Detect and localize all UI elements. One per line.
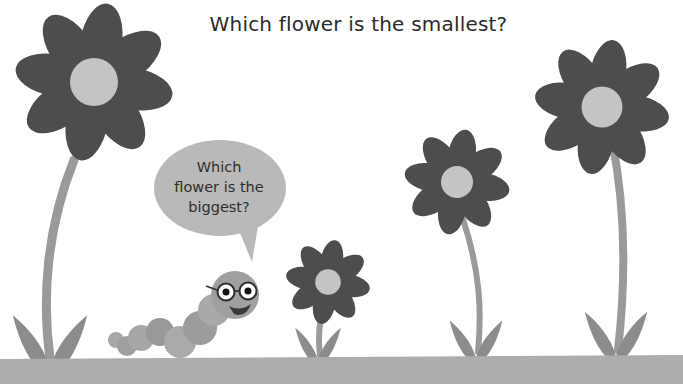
speech-bubble-line-3: biggest? (157, 197, 281, 217)
flower-2-head (284, 238, 371, 325)
speech-bubble-text: Which flower is the biggest? (157, 157, 281, 217)
scene (0, 0, 683, 384)
caterpillar (108, 271, 259, 358)
flower-1-head (12, 0, 176, 164)
flower-3-head (402, 127, 511, 236)
speech-bubble-line-2: flower is the (157, 177, 281, 197)
flower-2 (284, 238, 371, 364)
flower-1 (12, 0, 176, 374)
flower-3 (402, 127, 511, 362)
ground (0, 355, 683, 384)
speech-bubble-line-1: Which (157, 157, 281, 177)
flower-4 (532, 37, 672, 361)
flower-4-head (532, 37, 672, 177)
